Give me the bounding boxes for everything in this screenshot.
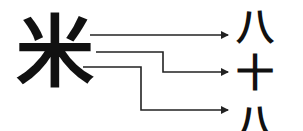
- target-character-middle: 十: [236, 54, 274, 92]
- arrow-to-bottom-target: [83, 67, 228, 110]
- target-character-bottom: 八: [236, 104, 274, 131]
- target-character-top: 八: [236, 8, 274, 46]
- arrow-to-middle-target: [96, 52, 228, 72]
